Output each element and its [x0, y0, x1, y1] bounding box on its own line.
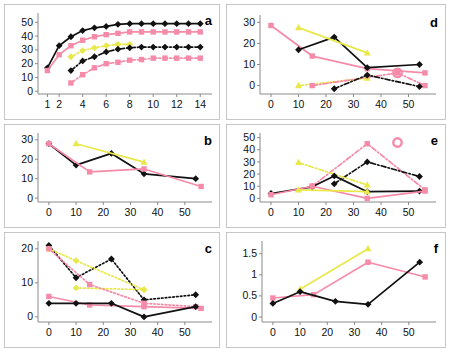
series-yellow-solid-triangle: [72, 140, 147, 165]
y-tick-label: 10: [21, 276, 33, 288]
y-tick-label: 20: [243, 168, 255, 180]
y-tick-label: 0.5: [242, 289, 257, 301]
series-black-dashdot-diamond-lower: [331, 72, 423, 93]
y-tick-label: 1: [251, 268, 257, 280]
y-tick-label: 0: [249, 192, 255, 204]
data-point-diamond: [115, 46, 122, 53]
y-tick-label: 50: [243, 131, 255, 143]
series-line: [273, 262, 425, 298]
series-black-dashdot-diamond: [68, 44, 204, 74]
panel-letter-b: b: [204, 133, 212, 148]
data-point-diamond: [332, 298, 339, 305]
x-tick-label: 0: [46, 206, 52, 218]
y-tick-label: 30: [243, 156, 255, 168]
y-tick-label: 20: [21, 57, 33, 69]
x-tick-label: 10: [70, 326, 82, 338]
data-point-diamond: [173, 44, 180, 51]
data-point-diamond: [297, 288, 304, 295]
x-tick-label: 30: [349, 326, 361, 338]
data-point-diamond: [416, 61, 423, 68]
data-point-diamond: [79, 47, 86, 54]
data-point-square: [186, 29, 191, 34]
data-point-square: [127, 58, 132, 63]
x-tick-label: 20: [97, 206, 109, 218]
data-point-square: [45, 68, 50, 73]
data-point-diamond: [115, 21, 122, 28]
data-point-diamond: [150, 20, 157, 27]
data-point-square: [365, 260, 370, 265]
data-point-diamond: [73, 257, 80, 264]
series-pink-dashdot-square-lower: [68, 55, 203, 85]
series-line: [76, 144, 144, 162]
x-tick-label: 10: [293, 206, 305, 218]
data-point-triangle: [295, 159, 302, 165]
data-point-square: [87, 282, 92, 287]
series-pink-circle-marker: [393, 138, 401, 146]
y-tick-label: 10: [243, 58, 255, 70]
panel-letter-d: d: [430, 15, 438, 30]
data-point-square: [174, 29, 179, 34]
data-point-square: [186, 55, 191, 60]
x-tick-label: 10: [147, 98, 159, 110]
data-point-square: [422, 188, 427, 193]
x-tick-label: 50: [403, 326, 415, 338]
series-line: [299, 37, 420, 68]
series-line: [299, 28, 368, 53]
data-point-square: [422, 274, 427, 279]
data-point-square: [198, 55, 203, 60]
y-tick-label: 30: [21, 43, 33, 55]
data-point-square: [198, 306, 203, 311]
data-point-diamond: [138, 20, 145, 27]
axes: [38, 133, 212, 202]
data-point-square: [422, 70, 427, 75]
x-tick-label: 14: [194, 98, 206, 110]
data-point-diamond: [103, 49, 110, 56]
data-point-diamond: [126, 20, 133, 27]
y-tick-label: 0: [27, 310, 33, 322]
x-tick-label: 30: [125, 206, 137, 218]
data-point-diamond: [141, 313, 148, 320]
y-tick-label: 0: [251, 311, 257, 323]
series-yellow-solid-triangle: [296, 245, 371, 292]
data-point-triangle: [364, 245, 371, 251]
panel-a: 0102030405012468101214a: [4, 4, 220, 120]
data-point-diamond: [185, 44, 192, 51]
data-point-diamond: [162, 20, 169, 27]
data-point-square: [151, 29, 156, 34]
y-tick-label: 0: [249, 79, 255, 91]
data-point-square: [162, 29, 167, 34]
y-tick-label: 20: [243, 37, 255, 49]
data-point-square: [46, 294, 51, 299]
data-point-square: [268, 192, 273, 197]
panel-c: 0102001020304050c: [4, 232, 220, 348]
x-tick-label: 20: [321, 326, 333, 338]
series-line: [49, 144, 201, 187]
x-tick-label: 2: [56, 98, 62, 110]
x-tick-label: 40: [375, 206, 387, 218]
data-point-diamond: [192, 291, 199, 298]
axes: [262, 241, 436, 322]
data-point-square: [80, 38, 85, 43]
data-point-square: [422, 83, 427, 88]
data-point-diamond: [331, 85, 338, 92]
data-point-square: [80, 72, 85, 77]
series-yellow-dashdot-diamond: [68, 41, 134, 60]
data-point-square: [365, 141, 370, 146]
series-pink-solid-square: [46, 141, 204, 189]
panel-b: 010203001020304050b: [4, 124, 220, 228]
series-line: [49, 245, 196, 299]
x-tick-label: 8: [127, 98, 133, 110]
panel-letter-f: f: [434, 241, 439, 256]
y-tick-label: 20: [21, 153, 33, 165]
y-tick-label: 50: [21, 16, 33, 28]
data-point-square: [115, 60, 120, 65]
data-point-square: [365, 196, 370, 201]
series-line: [271, 186, 425, 198]
y-tick-label: 10: [21, 172, 33, 184]
series-line: [49, 249, 144, 290]
x-tick-label: 4: [80, 98, 86, 110]
panel-e: 0102030405001020304050e: [226, 124, 446, 228]
y-tick-label: 0: [27, 85, 33, 97]
series-black-solid-diamond: [295, 34, 423, 71]
data-point-diamond: [416, 173, 423, 180]
